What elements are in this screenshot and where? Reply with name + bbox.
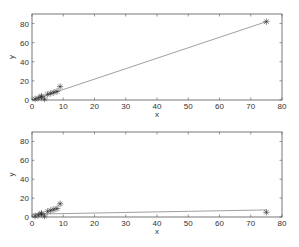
x-tick-label: 60 (215, 219, 224, 228)
x-tick-label: 10 (59, 219, 68, 228)
x-tick-label: 30 (121, 102, 130, 111)
data-point-star-marker (54, 88, 60, 94)
y-tick-label: 20 (20, 77, 29, 86)
x-tick-label: 10 (59, 102, 68, 111)
y-tick-label: 60 (20, 156, 29, 165)
x-tick-label: 30 (121, 219, 130, 228)
x-tick-label: 70 (246, 219, 255, 228)
data-point-star-marker (57, 201, 63, 207)
subplot-1: 01020304050607080020406080xy (7, 14, 287, 119)
figure: 01020304050607080020406080xy010203040506… (0, 0, 299, 247)
x-tick-label: 0 (30, 102, 35, 111)
x-tick-label: 20 (90, 102, 99, 111)
x-tick-label: 80 (278, 102, 287, 111)
x-tick-label: 50 (184, 102, 193, 111)
y-tick-label: 40 (20, 58, 29, 67)
y-tick-label: 0 (25, 96, 30, 105)
x-tick-label: 80 (278, 219, 287, 228)
data-point-star-marker (263, 209, 269, 215)
data-point-star-marker (54, 205, 60, 211)
x-axis-label: x (155, 227, 159, 236)
y-tick-label: 40 (20, 175, 29, 184)
x-tick-label: 0 (30, 219, 35, 228)
x-tick-label: 20 (90, 219, 99, 228)
x-tick-label: 70 (246, 102, 255, 111)
y-tick-label: 60 (20, 39, 29, 48)
data-point-star-marker (41, 213, 47, 219)
data-point-star-marker (41, 96, 47, 102)
x-tick-label: 60 (215, 102, 224, 111)
y-tick-label: 80 (20, 20, 29, 29)
subplot-2: 01020304050607080020406080xy (7, 132, 287, 236)
y-axis-label: y (7, 55, 16, 59)
y-axis-label: y (7, 173, 16, 177)
data-point-star-marker (57, 83, 63, 89)
x-tick-label: 50 (184, 219, 193, 228)
data-point-star-marker (263, 18, 269, 24)
y-tick-label: 20 (20, 194, 29, 203)
y-tick-label: 0 (25, 213, 30, 222)
y-tick-label: 80 (20, 137, 29, 146)
axes-box (32, 132, 282, 217)
x-axis-label: x (155, 110, 159, 119)
